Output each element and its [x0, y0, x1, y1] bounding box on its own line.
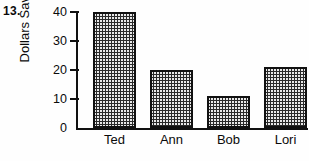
y-axis-tick-label: 20: [41, 64, 67, 76]
y-axis-tick-label: 40: [41, 6, 67, 18]
x-axis-label-bob: Bob: [199, 133, 259, 147]
x-axis-label-ted: Ted: [85, 133, 145, 147]
bar-chart-plot: Dollars Saved 010203040 TedAnnBobLori: [0, 0, 308, 161]
y-axis-tick-label: 30: [41, 35, 67, 47]
bar-lori: [264, 67, 307, 128]
bar-bob: [207, 96, 250, 128]
x-axis-label-lori: Lori: [256, 133, 309, 147]
bar-series: [78, 0, 308, 128]
bar-ann: [150, 70, 193, 128]
bar-slot: [150, 0, 193, 128]
y-axis-title: Dollars Saved: [17, 0, 33, 80]
chart-figure: 13. Dollars Saved 010203040 TedAnnBobLor…: [0, 0, 308, 161]
bar-slot: [93, 0, 136, 128]
bar-ted: [93, 12, 136, 128]
y-axis-tick-label: 0: [41, 122, 67, 134]
x-axis-label-ann: Ann: [142, 133, 202, 147]
bar-slot: [264, 0, 307, 128]
y-axis-tick-label: 10: [41, 93, 67, 105]
bar-slot: [207, 0, 250, 128]
x-axis-line: [76, 128, 308, 130]
